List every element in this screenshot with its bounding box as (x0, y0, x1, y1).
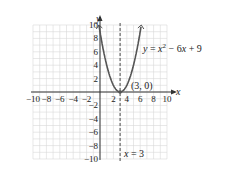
y-tick-label: −10 (84, 154, 99, 164)
y-axis-label: y (95, 13, 101, 24)
y-tick-label: 8 (94, 33, 99, 43)
x-tick-label: 4 (125, 94, 130, 104)
y-tick-label: 2 (94, 74, 99, 84)
x-tick-label: −10 (26, 94, 41, 104)
x-tick-label: 2 (111, 94, 116, 104)
x-axis-label: x (175, 86, 181, 97)
x-tick-label: 6 (138, 94, 143, 104)
y-tick-label: 4 (94, 60, 99, 70)
vertex-point (118, 90, 122, 94)
y-tick-label: 6 (94, 47, 99, 57)
y-tick-label: −8 (88, 141, 98, 151)
x-tick-label: −4 (68, 94, 78, 104)
x-tick-label: −8 (42, 94, 52, 104)
symmetry-label: x = 3 (123, 148, 144, 159)
x-tick-label: −6 (55, 94, 65, 104)
x-tick-label: 10 (163, 94, 173, 104)
vertex-label: (3, 0) (131, 80, 153, 92)
y-tick-label: −6 (88, 127, 98, 137)
chart-svg: −10−8−6−4−2246810108642−2−4−6−8−10 x y y… (0, 0, 232, 169)
y-tick-label: −2 (88, 100, 98, 110)
y-tick-label: −4 (88, 114, 98, 124)
equation-label: y = x2 − 6x + 9 (142, 42, 202, 54)
x-tick-label: 8 (151, 94, 156, 104)
